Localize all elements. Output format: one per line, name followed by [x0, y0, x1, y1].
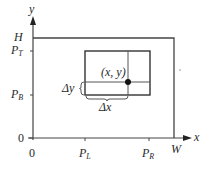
- x-axis-label: x: [194, 131, 199, 143]
- delta-y-label: Δy: [62, 82, 74, 94]
- x-tick-w-text: W: [171, 142, 181, 156]
- y-tick-label-pb: PB: [11, 88, 23, 102]
- y-axis-label: y: [29, 3, 34, 15]
- x-tick-pl-sub: L: [86, 152, 90, 161]
- x-tick-label-pr: PR: [142, 147, 154, 161]
- x-tick-label-pl: PL: [79, 147, 91, 161]
- origin-x-label: 0: [29, 147, 35, 159]
- y-tick-pb-sub: B: [18, 93, 23, 102]
- delta-x-label: Δx: [99, 101, 111, 113]
- stray-dot: [179, 69, 181, 71]
- x-axis-arrow-icon: [183, 135, 192, 141]
- y-tick-label-pt: PT: [11, 44, 23, 58]
- y-tick-label-h: H: [14, 31, 23, 43]
- point-label: (x, y): [101, 66, 126, 78]
- point-marker: [125, 79, 131, 85]
- y-tick-h-text: H: [14, 30, 23, 44]
- x-tick-pr-sub: R: [149, 152, 154, 161]
- outer-rect: [33, 38, 174, 138]
- x-tick-label-w: W: [171, 143, 181, 155]
- y-axis-arrow-icon: [30, 16, 36, 25]
- delta-y-brace: [80, 82, 85, 95]
- coordinate-diagram: y x H PT PB 0 0 PL PR W (x, y) Δy Δx: [0, 0, 210, 174]
- y-tick-pt-sub: T: [18, 49, 22, 58]
- origin-y-label: 0: [18, 132, 24, 144]
